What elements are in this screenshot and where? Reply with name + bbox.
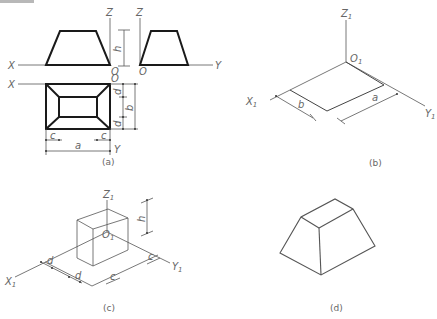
label-x1-c: X1 — [4, 276, 16, 289]
label-d2-c: d — [75, 270, 82, 281]
y1-axis-c — [107, 232, 170, 263]
label-x-front: X — [7, 60, 16, 71]
label-b-top: b — [124, 105, 135, 111]
label-h-c: h — [136, 216, 147, 222]
top-inner-rect — [59, 97, 97, 117]
label-c-left: c — [50, 130, 56, 141]
dim-b-b — [276, 96, 313, 118]
label-b-b: b — [298, 99, 304, 110]
frustum-outline — [280, 199, 375, 275]
panel-b: Z1 O1 X1 Y1 b a (b) — [245, 8, 436, 168]
label-z-side: Z — [135, 7, 144, 18]
label-y-top: Y — [114, 144, 121, 155]
label-d-top: d — [112, 88, 123, 95]
top-view: X O d d b c — [7, 73, 138, 155]
dim-a-b — [341, 94, 397, 121]
label-o1-b: O1 — [350, 53, 362, 66]
top-outer-rect — [46, 84, 110, 129]
label-a-b: a — [372, 92, 378, 103]
label-y1-c: Y1 — [172, 261, 183, 274]
label-z-front: Z — [105, 7, 114, 18]
label-x1-b: X1 — [245, 96, 257, 109]
label-d1-c: d — [47, 255, 54, 266]
label-z1-c: Z1 — [102, 189, 114, 202]
label-c-right: c — [101, 130, 107, 141]
label-h-front: h — [112, 46, 123, 52]
side-trapezoid — [140, 31, 188, 65]
front-trapezoid — [46, 31, 110, 65]
caption-d: (d) — [330, 303, 343, 313]
label-y1-b: Y1 — [425, 108, 436, 121]
label-x-top: X — [7, 79, 16, 90]
figure-canvas: X Z O h Z O Y X O — [0, 0, 437, 319]
panel-d: (d) — [280, 199, 375, 313]
label-y-side: Y — [215, 60, 222, 71]
label-o1-c: O1 — [102, 229, 114, 242]
label-o-top: O — [111, 73, 119, 84]
caption-a: (a) — [102, 157, 115, 167]
x1-axis-b — [270, 62, 346, 100]
label-c1-c: c — [110, 271, 116, 282]
panel-a: X Z O h Z O Y X O — [7, 7, 222, 167]
label-d-bottom: d — [112, 120, 123, 127]
label-c2-c: c — [148, 251, 154, 262]
label-a-top: a — [75, 140, 81, 151]
label-z1-b: Z1 — [340, 8, 352, 21]
caption-c: (c) — [103, 303, 115, 313]
caption-b: (b) — [369, 158, 382, 168]
panel-c: Z1 O1 X1 Y1 h d d c c (c) — [4, 189, 183, 313]
side-view: Z O Y — [135, 7, 222, 77]
label-o-side: O — [139, 66, 147, 77]
front-view: X Z O h — [7, 7, 130, 77]
